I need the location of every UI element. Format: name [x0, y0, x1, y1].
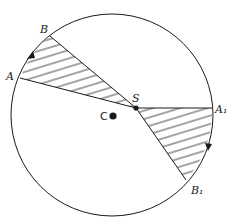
point-C: [109, 112, 116, 119]
arrow-arc-AB-icon: [27, 51, 35, 59]
circle-diagram: A B S C A₁ B₁: [0, 0, 232, 224]
shaded-region-A1B1S: [136, 108, 212, 180]
label-B1: B₁: [190, 184, 204, 197]
point-S: [133, 105, 138, 110]
label-C: C: [100, 110, 108, 123]
label-B: B: [39, 23, 48, 36]
label-S: S: [132, 92, 140, 105]
label-A: A: [5, 70, 14, 83]
label-A1: A₁: [214, 103, 227, 116]
arrow-arc-A1B1-icon: [205, 143, 212, 151]
